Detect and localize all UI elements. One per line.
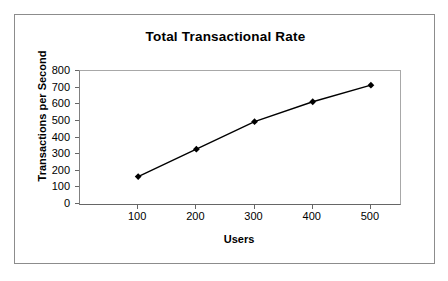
y-tick-label: 600 bbox=[30, 97, 70, 109]
x-axis-label: Users bbox=[79, 233, 399, 245]
y-tick-label: 100 bbox=[30, 180, 70, 192]
x-tick-label: 300 bbox=[224, 210, 284, 222]
chart-figure: Total Transactional Rate Transactions pe… bbox=[14, 14, 435, 264]
y-tick-mark bbox=[75, 203, 79, 204]
chart-title: Total Transactional Rate bbox=[15, 29, 436, 44]
data-point-marker bbox=[135, 173, 142, 180]
y-tick-mark bbox=[75, 153, 79, 154]
data-point-marker bbox=[251, 118, 258, 125]
x-tick-mark bbox=[137, 204, 138, 209]
y-tick-mark bbox=[75, 137, 79, 138]
y-tick-label: 800 bbox=[30, 64, 70, 76]
x-tick-label: 500 bbox=[340, 210, 400, 222]
y-tick-mark bbox=[75, 87, 79, 88]
x-tick-mark bbox=[254, 204, 255, 209]
x-tick-mark bbox=[370, 204, 371, 209]
data-line bbox=[138, 85, 371, 176]
x-tick-label: 100 bbox=[107, 210, 167, 222]
y-tick-label: 200 bbox=[30, 164, 70, 176]
plot-area bbox=[79, 70, 401, 205]
y-tick-mark bbox=[75, 70, 79, 71]
y-tick-label: 700 bbox=[30, 81, 70, 93]
data-point-marker bbox=[309, 98, 316, 105]
x-tick-mark bbox=[195, 204, 196, 209]
data-point-marker bbox=[193, 146, 200, 153]
data-markers bbox=[135, 82, 375, 180]
y-tick-label: 500 bbox=[30, 114, 70, 126]
x-tick-label: 400 bbox=[282, 210, 342, 222]
y-tick-mark bbox=[75, 186, 79, 187]
y-tick-mark bbox=[75, 120, 79, 121]
data-point-marker bbox=[368, 82, 375, 89]
y-tick-mark bbox=[75, 170, 79, 171]
y-tick-label: 400 bbox=[30, 131, 70, 143]
x-tick-label: 200 bbox=[165, 210, 225, 222]
y-tick-label: 0 bbox=[30, 197, 70, 209]
x-tick-mark bbox=[312, 204, 313, 209]
y-tick-mark bbox=[75, 103, 79, 104]
y-tick-label: 300 bbox=[30, 147, 70, 159]
series-line-total-transactional-rate bbox=[80, 71, 400, 204]
